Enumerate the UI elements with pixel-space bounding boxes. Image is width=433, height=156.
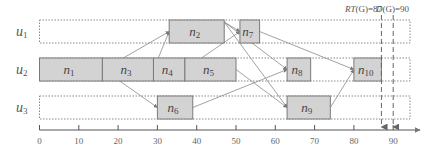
task-n10[interactable]: n10 xyxy=(354,58,382,81)
task-n5[interactable]: n5 xyxy=(185,58,236,81)
task-n8[interactable]: n8 xyxy=(287,58,311,81)
task-n7[interactable]: n7 xyxy=(240,20,260,43)
task-n2[interactable]: n2 xyxy=(169,20,224,43)
axis-tick-label: 50 xyxy=(232,136,242,146)
axis-tick-label: 80 xyxy=(349,136,359,146)
axis-tick-label: 0 xyxy=(37,136,42,146)
row-label: u2 xyxy=(16,62,28,78)
axis-tick-label: 70 xyxy=(310,136,320,146)
row-lane xyxy=(40,96,411,119)
schedule-diagram: u1u2u3 n1n2n3n4n5n6n7n8n9n10 01020304050… xyxy=(0,0,433,156)
axis-tick-label: 30 xyxy=(153,136,163,146)
task-n4[interactable]: n4 xyxy=(153,58,184,81)
task-n1[interactable]: n1 xyxy=(40,58,103,81)
task-n6[interactable]: n6 xyxy=(157,96,192,119)
task-n9[interactable]: n9 xyxy=(287,96,330,119)
task-n3[interactable]: n3 xyxy=(102,58,153,81)
row-lane xyxy=(40,20,411,43)
axis-tick-label: 90 xyxy=(389,136,399,146)
row-label: u1 xyxy=(16,24,28,40)
time-axis: 0102030405060708090 xyxy=(37,125,420,146)
axis-tick-label: 60 xyxy=(271,136,281,146)
axis-tick-label: 10 xyxy=(74,136,84,146)
row-label: u3 xyxy=(16,100,28,116)
axis-tick-label: 40 xyxy=(192,136,202,146)
marker-label: D(G)=90 xyxy=(375,4,410,14)
axis-tick-label: 20 xyxy=(114,136,124,146)
